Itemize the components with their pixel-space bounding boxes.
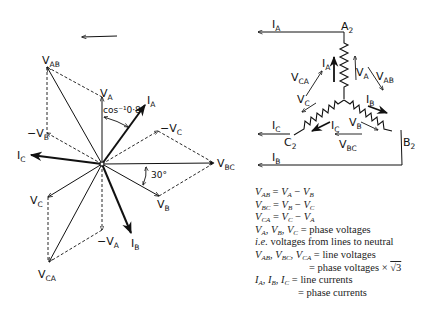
vb-phasor <box>102 164 159 196</box>
equation-vab: VAB = VA − VB <box>255 186 401 199</box>
vb-arrow <box>361 122 378 130</box>
neg-vc-phasor <box>102 131 158 164</box>
label-neg-vc: −VC <box>160 122 182 137</box>
equation-vbc: VBC = VB − VC <box>255 199 401 212</box>
label-ib-phase: IB <box>366 93 374 108</box>
label-vbc: VBC <box>339 138 357 153</box>
ic-phasor <box>31 155 102 164</box>
terminal-a2: A2 <box>341 20 354 35</box>
label-vc: VC <box>30 194 43 209</box>
label-vc: VC <box>297 93 310 108</box>
vca-phasor <box>49 164 102 262</box>
label-ia-phase: IA <box>322 57 331 72</box>
label-vab: VAB <box>42 54 60 69</box>
label-ic-phase: IC <box>331 119 340 134</box>
ic-phase-arrow <box>312 122 330 131</box>
equations-block: VAB = VA − VB VBC = VB − VC VCA = VC − V… <box>255 186 401 299</box>
label-ib: IB <box>131 237 139 252</box>
origin-point <box>100 162 104 166</box>
star-circuit <box>258 32 402 165</box>
terminal-c2: C2 <box>284 136 297 151</box>
vc-phasor <box>48 164 102 197</box>
definition-phase-currents: = phase currents <box>255 287 401 300</box>
definition-line-voltages: VAB, VBC, VCA = line voltages <box>255 249 401 262</box>
definition-root3: = phase voltages × √3 <box>255 262 401 275</box>
rotation-arrow-icon <box>82 36 117 37</box>
label-vca: VCA <box>38 268 57 283</box>
equation-vca: VCA = VC − VA <box>255 211 401 224</box>
definition-line-currents: IA, IB, IC = line currents <box>255 274 401 287</box>
label-neg-va: −VA <box>97 235 120 250</box>
label-pf-angle: cos⁻¹0·8 <box>103 105 141 115</box>
label-neg-vb: −VB <box>27 127 49 142</box>
label-ic-line: IC <box>272 119 281 134</box>
phase-a-winding <box>340 40 348 99</box>
definition-line-to-neutral: i.e. voltages from lines to neutral <box>255 236 401 249</box>
label-vb: VB <box>157 198 170 213</box>
label-30-deg: 30° <box>151 170 167 180</box>
vbc-phasor <box>102 163 214 164</box>
label-ia: IA <box>147 94 156 109</box>
pf-angle-arc <box>104 117 128 127</box>
label-ib-line: IB <box>272 151 280 166</box>
thirty-angle-arc <box>143 167 146 185</box>
label-ic: IC <box>17 149 26 164</box>
definition-phase-voltages: VA, VB, VC = phase voltages <box>255 224 401 237</box>
label-va: VA <box>356 66 370 81</box>
label-vbc: VBC <box>217 157 235 172</box>
label-vab: VAB <box>376 70 394 85</box>
terminal-b2: B2 <box>403 136 416 151</box>
label-ia-line: IA <box>272 18 281 33</box>
label-vb: VB <box>349 116 362 131</box>
ib-phasor <box>102 164 131 233</box>
label-va: VA <box>100 87 114 102</box>
label-vca: VCA <box>291 71 310 86</box>
phasor-diagram: VAB VA IA cos⁻¹0·8 −VB −VC IC VBC 30° VB… <box>17 36 235 283</box>
